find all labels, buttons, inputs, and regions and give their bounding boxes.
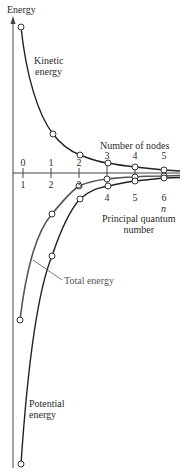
top-tick-2: 2 [73, 158, 85, 168]
top-tick-1: 1 [45, 158, 57, 168]
pqn-label-line2: number [102, 224, 176, 235]
bottom-tick-3: 3 [73, 180, 85, 190]
bottom-tick-5: 5 [129, 193, 141, 203]
energy-diagram [0, 0, 184, 474]
potential-label-line1: Potential [29, 398, 65, 409]
potential-label-line2: energy [29, 409, 65, 420]
bottom-tick-6: 6 [158, 193, 170, 203]
top-tick-3: 3 [101, 151, 113, 161]
pqn-label-line1: Principal quantum [102, 213, 176, 224]
total-energy-curve [20, 176, 180, 321]
bottom-tick-2: 2 [45, 180, 57, 190]
bottom-tick-4: 4 [101, 193, 113, 203]
top-tick-5: 5 [158, 151, 170, 161]
y-axis-arrow-icon [11, 16, 16, 24]
principal-quantum-number-label: Principal quantum number [102, 213, 176, 235]
top-tick-4: 4 [129, 151, 141, 161]
bottom-tick-1: 1 [17, 180, 29, 190]
kinetic-label-line2: energy [34, 66, 63, 77]
total-energy-pointer [33, 260, 62, 280]
y-axis-label: Energy [7, 4, 36, 15]
potential-energy-label: Potential energy [29, 398, 65, 420]
total-energy-label: Total energy [64, 275, 114, 286]
top-tick-0: 0 [17, 158, 29, 168]
kinetic-energy-label: Kinetic energy [34, 55, 63, 77]
kinetic-label-line1: Kinetic [34, 55, 63, 66]
